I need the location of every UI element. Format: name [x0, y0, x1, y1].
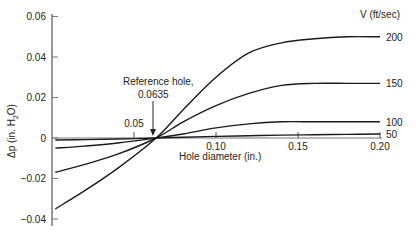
- y-tick-label: 0.04: [27, 52, 47, 63]
- y-tick-label: −0.04: [21, 214, 47, 225]
- legend-title: V (ft/sec): [360, 9, 400, 20]
- y-tick-label: −0.02: [21, 173, 47, 184]
- x-tick-label: 0.20: [370, 141, 390, 152]
- curve-v-200: [55, 37, 380, 209]
- curve-label-v-50: 50: [386, 129, 398, 140]
- annotation-line1: Reference hole,: [123, 76, 194, 87]
- chart: 0.060.040.020−0.02−0.04 0.050.100.150.20…: [0, 0, 420, 237]
- x-tick-label: 0.15: [288, 141, 308, 152]
- y-tick-label: 0: [40, 133, 46, 144]
- y-axis-label: Δp (in. H2O): [6, 104, 19, 158]
- y-tick-label: 0.02: [27, 92, 47, 103]
- curves: [55, 37, 380, 209]
- curve-labels: 20015010050: [386, 32, 403, 140]
- curve-label-v-100: 100: [386, 117, 403, 128]
- curve-label-v-200: 200: [386, 32, 403, 43]
- annotation-line2: 0.0635: [138, 89, 169, 100]
- curve-v-50: [55, 134, 380, 140]
- annotation-arrow: [150, 101, 156, 136]
- curve-label-v-150: 150: [386, 78, 403, 89]
- x-axis-label: Hole diameter (in.): [179, 151, 261, 162]
- y-tick-label: 0.06: [27, 11, 47, 22]
- x-tick-label: 0.05: [124, 118, 144, 129]
